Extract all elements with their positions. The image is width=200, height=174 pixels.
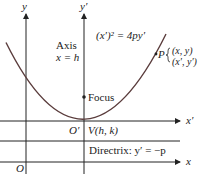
- origin-prime-label: O′: [69, 125, 79, 136]
- parabola-equation: (x′)² = 4py′: [96, 30, 145, 41]
- focus-point: [82, 95, 86, 99]
- parabola-diagram: y y′ Axis x = h (x′)² = 4py′ P (x, y) (x…: [0, 0, 200, 174]
- directrix-label: Directrix: y′ = −p: [89, 145, 166, 156]
- point-p-label: P: [158, 49, 165, 60]
- vertex-label: V(h, k): [88, 125, 118, 136]
- y-prime-axis-label: y′: [80, 1, 87, 12]
- y-axis-label: y: [22, 1, 27, 12]
- axis-label: Axis: [56, 40, 77, 51]
- point-p: [155, 53, 158, 56]
- focus-label: Focus: [88, 92, 114, 103]
- p-brace: [166, 48, 170, 62]
- parabola-curve: [6, 34, 166, 119]
- x-prime-axis-label: x′: [186, 115, 193, 126]
- axis-equation: x = h: [56, 52, 79, 63]
- p-coord-xy: (x, y): [172, 46, 193, 56]
- x-axis-label: x: [186, 156, 191, 167]
- origin-label: O: [16, 163, 24, 174]
- p-coord-prime: (x′, y′): [172, 57, 197, 67]
